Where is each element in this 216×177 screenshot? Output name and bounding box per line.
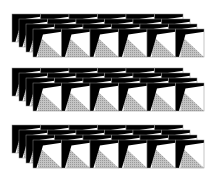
tile <box>147 140 176 168</box>
tile-row <box>33 140 204 168</box>
tile <box>147 83 176 111</box>
tile <box>90 29 119 57</box>
tile <box>33 140 62 168</box>
group-3 <box>12 125 204 168</box>
tile <box>176 140 205 168</box>
tile <box>33 29 62 57</box>
tile <box>90 83 119 111</box>
tile <box>62 83 91 111</box>
tile-groups <box>12 14 204 168</box>
tile <box>33 83 62 111</box>
tile <box>176 83 205 111</box>
tile <box>119 83 148 111</box>
tile <box>90 140 119 168</box>
tile <box>176 29 205 57</box>
tile-diagram <box>0 0 216 177</box>
tile <box>119 140 148 168</box>
tile <box>62 29 91 57</box>
tile <box>119 29 148 57</box>
group-2 <box>12 68 204 111</box>
tile-row <box>33 29 204 57</box>
group-1 <box>12 14 204 57</box>
tile-row <box>33 83 204 111</box>
tile <box>147 29 176 57</box>
tile <box>62 140 91 168</box>
